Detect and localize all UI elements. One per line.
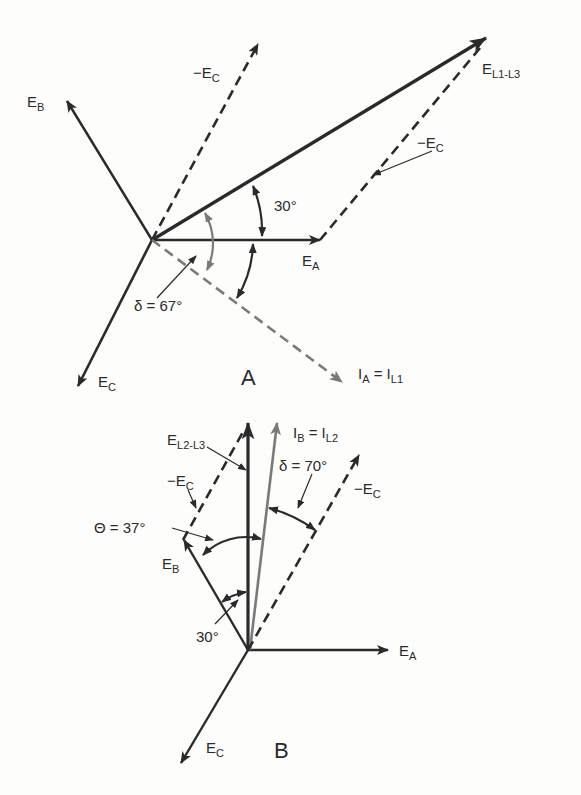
- angle-30-pointer-b: [215, 600, 238, 624]
- label-neg-ec-a: −EC: [193, 64, 220, 84]
- label-angle-30-b: 30°: [196, 628, 219, 645]
- label-ia-il1: IA = IL1: [358, 365, 403, 385]
- el2-l3-pointer: [207, 447, 246, 470]
- label-el1-l3: EL1-L3: [482, 60, 520, 80]
- label-neg-ec-left-b: −EC: [167, 472, 194, 492]
- panel-label-b: B: [274, 738, 289, 763]
- angle-arc-delta-gray: [205, 213, 213, 270]
- label-el2-l3: EL2-L3: [167, 431, 205, 451]
- angle-arc-delta-black: [237, 244, 253, 298]
- neg-ec-pointer-a: [373, 151, 432, 175]
- angle-arc-30-a: [253, 186, 262, 236]
- label-delta-67: δ = 67°: [134, 297, 182, 314]
- theta-pointer: [172, 528, 213, 540]
- label-ea-a: EA: [302, 252, 320, 272]
- label-eb-b: EB: [162, 555, 179, 575]
- label-theta-37: Θ = 37°: [94, 519, 145, 536]
- label-delta-70: δ = 70°: [279, 457, 327, 474]
- label-ib-il2: IB = IL2: [293, 424, 338, 444]
- panel-label-a: A: [241, 365, 256, 390]
- diagram-a: EB −EC EL1-L3 −EC 30° EA δ = 67° EC A IA…: [27, 38, 520, 393]
- label-ec-b: EC: [206, 739, 224, 759]
- label-angle-30-a: 30°: [274, 197, 297, 214]
- vector-neg-ec-translated-a: [320, 48, 480, 240]
- label-ec-a: EC: [98, 373, 116, 393]
- angle-arc-30-b: [222, 592, 246, 602]
- diagram-b: EL2-L3 IB = IL2 δ = 70° −EC −EC Θ = 37° …: [94, 423, 417, 763]
- neg-ec-left-pointer: [188, 490, 196, 508]
- label-eb-a: EB: [27, 93, 44, 113]
- delta-70-pointer: [298, 474, 312, 508]
- label-ea-b: EA: [399, 642, 417, 662]
- phasor-diagram: EB −EC EL1-L3 −EC 30° EA δ = 67° EC A IA…: [0, 0, 581, 795]
- vector-neg-ec-b: [248, 455, 359, 650]
- vector-eb-a: [67, 101, 152, 240]
- delta-pointer-a: [157, 256, 196, 298]
- label-neg-ec-translated-a: −EC: [417, 134, 444, 154]
- angle-arc-delta-70: [269, 508, 315, 530]
- label-neg-ec-right-b: −EC: [354, 480, 381, 500]
